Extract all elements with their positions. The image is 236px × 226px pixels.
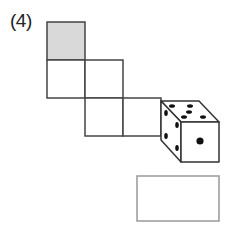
figure bbox=[0, 0, 236, 226]
answer-box[interactable] bbox=[137, 176, 219, 221]
net-cell bbox=[85, 98, 123, 136]
net-cell-shaded bbox=[47, 22, 85, 60]
net-cell bbox=[123, 98, 161, 136]
net-cell bbox=[47, 60, 85, 98]
die-icon bbox=[161, 101, 219, 162]
cube-net bbox=[47, 22, 161, 136]
net-cell bbox=[85, 60, 123, 98]
